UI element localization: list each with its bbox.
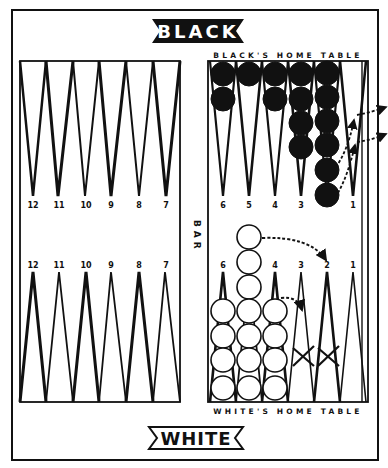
black-checker — [263, 87, 287, 111]
black-home-table-label: BLACK'S HOME TABLE — [213, 51, 362, 60]
black-checker — [289, 111, 313, 135]
black-checker — [315, 133, 339, 157]
black-checker — [315, 109, 339, 133]
black-checker — [315, 85, 339, 109]
home-bottom-number: 4 — [272, 261, 278, 270]
outer-bottom-number: 12 — [27, 261, 38, 270]
black-checker — [289, 135, 313, 159]
outer-top-number: 9 — [108, 201, 114, 210]
white-banner: WHITE — [149, 427, 243, 449]
black-checker — [315, 183, 339, 207]
outer-top-number: 8 — [136, 201, 142, 210]
home-top-number: 6 — [220, 201, 226, 210]
backgammon-diagram: BLACK BLACK'S HOME TABLE 12 11 10 — [0, 0, 388, 468]
white-checker — [237, 299, 261, 323]
home-top-number: 5 — [246, 201, 252, 210]
white-checker — [263, 348, 287, 372]
home-top-number: 3 — [298, 201, 304, 210]
bar-label: BAR — [192, 220, 202, 253]
outer-board: 12 11 10 9 8 7 12 11 10 9 8 7 — [20, 61, 180, 402]
white-checker — [211, 376, 235, 400]
white-checker — [237, 348, 261, 372]
white-banner-label: WHITE — [160, 428, 231, 449]
white-checker — [211, 299, 235, 323]
white-checker — [237, 250, 261, 274]
outer-bottom-number: 11 — [53, 261, 65, 270]
white-checker — [237, 225, 261, 249]
black-banner-label: BLACK — [157, 21, 238, 42]
white-checker — [263, 376, 287, 400]
outer-top-number: 7 — [163, 201, 169, 210]
outer-bottom-number: 8 — [136, 261, 142, 270]
white-checker — [263, 324, 287, 348]
black-banner: BLACK — [152, 19, 244, 43]
home-top-number: 1 — [350, 201, 356, 210]
bar: BAR — [192, 220, 202, 253]
outer-top-number: 10 — [80, 201, 92, 210]
home-bottom-number: 6 — [220, 261, 226, 270]
black-checker — [289, 62, 313, 86]
white-checker — [211, 324, 235, 348]
home-bottom-number: 3 — [298, 261, 304, 270]
outer-bottom-number: 7 — [163, 261, 169, 270]
black-checker — [315, 158, 339, 182]
black-checker — [211, 62, 235, 86]
black-checker — [211, 87, 235, 111]
home-bottom-number: 2 — [324, 261, 330, 270]
white-home-table-label: WHITE'S HOME TABLE — [213, 407, 362, 416]
outer-bottom-number: 9 — [108, 261, 114, 270]
white-checker — [263, 299, 287, 323]
white-checker — [211, 348, 235, 372]
white-checker — [237, 376, 261, 400]
black-checker — [263, 62, 287, 86]
outer-top-number: 12 — [27, 201, 38, 210]
black-checker — [237, 62, 261, 86]
outer-top-number: 11 — [53, 201, 65, 210]
home-top-number: 4 — [272, 201, 278, 210]
home-bottom-number: 1 — [350, 261, 356, 270]
white-checker — [237, 324, 261, 348]
home-board: 6 5 4 3 1 6 4 3 2 1 — [208, 61, 386, 402]
outer-bottom-number: 10 — [80, 261, 92, 270]
white-checker — [237, 275, 261, 299]
black-checker — [289, 87, 313, 111]
black-checker — [315, 61, 339, 85]
